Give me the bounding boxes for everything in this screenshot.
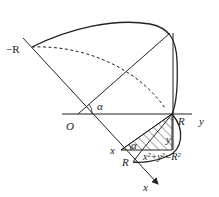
label-x-axis: x xyxy=(142,181,148,193)
label-equation: x²+y²=R² xyxy=(142,151,181,162)
label-y-point: y xyxy=(165,133,171,145)
diagram-canvas: −R O α α R y x y R x²+y²=R² x xyxy=(0,0,219,197)
upper-radius-line xyxy=(78,33,170,114)
label-alpha-top: α xyxy=(97,100,103,112)
dashed-arc xyxy=(32,47,165,108)
label-alpha-small: α xyxy=(131,139,137,151)
label-x-point: x xyxy=(109,144,115,156)
upper-arc xyxy=(32,22,177,114)
label-R-axis: R xyxy=(177,115,185,127)
label-origin: O xyxy=(66,120,74,132)
label-R-lower: R xyxy=(121,156,129,168)
label-neg-R: −R xyxy=(6,43,20,55)
label-y-axis: y xyxy=(198,115,204,127)
